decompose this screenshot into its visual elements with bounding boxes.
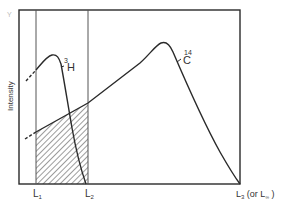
l1-label: L1	[33, 188, 43, 200]
spectrum-diagram: 3 H 14 C Intensity Y L1 L2 L3 (or L∞ )	[0, 0, 282, 206]
hatched-region	[36, 103, 88, 184]
l2-label: L2	[85, 188, 95, 200]
tritium-curve-dashed	[26, 70, 36, 81]
y-axis-label: Intensity	[6, 81, 15, 111]
corner-mark: Y	[7, 11, 12, 18]
l3-label: L3 (or L∞ )	[236, 189, 274, 200]
carbon14-curve-dashed	[25, 132, 36, 139]
carbon14-label-element: C	[183, 54, 191, 66]
tritium-label-element: H	[67, 61, 75, 73]
carbon14-label-pointer	[177, 59, 181, 62]
